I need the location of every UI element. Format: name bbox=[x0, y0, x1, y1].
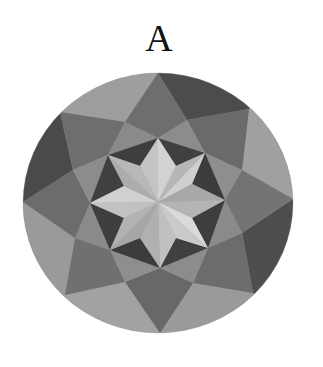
disc-group bbox=[5, 60, 310, 350]
faceted-star-diagram bbox=[0, 0, 323, 367]
